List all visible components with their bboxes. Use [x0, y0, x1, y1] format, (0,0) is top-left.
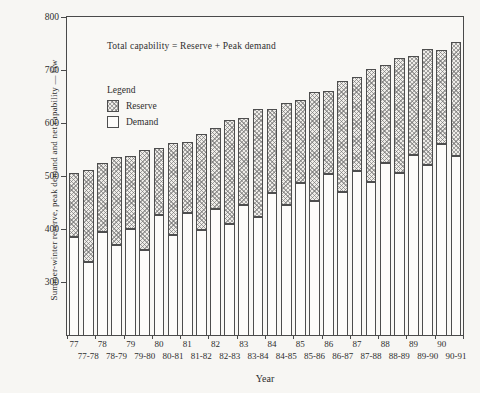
- bar-reserve-81-82: [196, 134, 207, 230]
- figure: Summer-winter reserve, peak demand and n…: [0, 0, 480, 393]
- bar-demand-88: [380, 163, 391, 335]
- bar-reserve-77-78: [83, 170, 94, 263]
- bar-demand-85-86: [309, 201, 320, 335]
- bar-demand-82: [210, 209, 221, 335]
- plot-area: Summer-winter reserve, peak demand and n…: [66, 16, 464, 336]
- bar-reserve-90: [436, 50, 447, 144]
- bar-demand-85: [295, 183, 306, 335]
- bar-demand-78: [97, 232, 108, 335]
- bar-demand-83-84: [253, 217, 264, 335]
- bar-reserve-84-85: [281, 103, 292, 205]
- y-tick-label: 400: [29, 224, 59, 235]
- bar-demand-86-87: [337, 192, 348, 335]
- y-tick-label: 700: [29, 65, 59, 76]
- legend-item-demand: Demand: [107, 116, 158, 128]
- bar-reserve-84: [267, 109, 278, 194]
- bar-demand-78-79: [111, 245, 122, 335]
- bar-demand-90: [436, 144, 447, 335]
- bar-demand-86: [323, 174, 334, 335]
- bar-reserve-78: [97, 163, 108, 231]
- y-tick-label: 600: [29, 118, 59, 129]
- bar-reserve-82: [210, 128, 221, 210]
- bar-reserve-87-88: [366, 69, 377, 181]
- bar-demand-84: [267, 193, 278, 335]
- bar-reserve-87: [352, 77, 363, 170]
- y-axis-tick: [61, 282, 66, 283]
- bar-demand-82-83: [224, 224, 235, 335]
- bar-reserve-88-89: [394, 58, 405, 174]
- bar-reserve-85: [295, 100, 306, 183]
- bar-demand-80: [154, 215, 165, 335]
- demand-swatch-icon: [107, 116, 119, 128]
- bar-demand-87-88: [366, 182, 377, 335]
- bar-demand-90-91: [451, 156, 462, 335]
- y-tick-label: 500: [29, 171, 59, 182]
- y-axis-tick: [61, 229, 66, 230]
- bar-demand-77-78: [83, 262, 94, 335]
- bar-reserve-77: [69, 173, 80, 237]
- bar-reserve-82-83: [224, 120, 235, 224]
- legend-item-reserve: Reserve: [107, 100, 158, 112]
- y-axis-tick: [61, 70, 66, 71]
- x-axis-title: Year: [67, 373, 463, 384]
- y-axis-tick: [61, 17, 66, 18]
- y-axis-tick: [61, 123, 66, 124]
- bar-demand-81: [182, 213, 193, 335]
- y-axis-tick: [61, 176, 66, 177]
- bar-reserve-89-90: [422, 49, 433, 166]
- bar-demand-89-90: [422, 165, 433, 335]
- bar-demand-79-80: [139, 250, 150, 335]
- bar-reserve-88: [380, 65, 391, 163]
- bar-reserve-78-79: [111, 157, 122, 244]
- bar-reserve-80-81: [168, 143, 179, 236]
- bar-reserve-86: [323, 91, 334, 175]
- x-tick-label: 90: [420, 339, 464, 350]
- bar-reserve-83: [238, 118, 249, 205]
- bar-demand-81-82: [196, 230, 207, 335]
- bar-demand-83: [238, 205, 249, 335]
- y-tick-label: 300: [29, 277, 59, 288]
- bar-reserve-90-91: [451, 42, 462, 156]
- bar-demand-88-89: [394, 173, 405, 335]
- bar-demand-87: [352, 171, 363, 335]
- bar-demand-79: [125, 229, 136, 335]
- total-capability-annotation: Total capability = Reserve + Peak demand: [107, 41, 276, 51]
- legend: Legend Reserve Demand: [107, 85, 158, 132]
- bar-reserve-79-80: [139, 150, 150, 251]
- bar-demand-84-85: [281, 205, 292, 335]
- bar-demand-89: [408, 155, 419, 335]
- legend-label-reserve: Reserve: [126, 101, 157, 111]
- bar-reserve-79: [125, 156, 136, 229]
- bar-reserve-85-86: [309, 92, 320, 201]
- reserve-swatch-icon: [107, 100, 119, 112]
- bar-reserve-89: [408, 56, 419, 155]
- legend-title: Legend: [107, 85, 158, 95]
- bar-reserve-83-84: [253, 109, 264, 217]
- bar-demand-77: [69, 237, 80, 335]
- x-tick-label: 90-91: [434, 351, 478, 362]
- bar-reserve-86-87: [337, 81, 348, 192]
- legend-label-demand: Demand: [126, 117, 158, 127]
- bar-reserve-80: [154, 148, 165, 214]
- bar-reserve-81: [182, 142, 193, 214]
- y-tick-label: 800: [29, 12, 59, 23]
- bar-demand-80-81: [168, 235, 179, 335]
